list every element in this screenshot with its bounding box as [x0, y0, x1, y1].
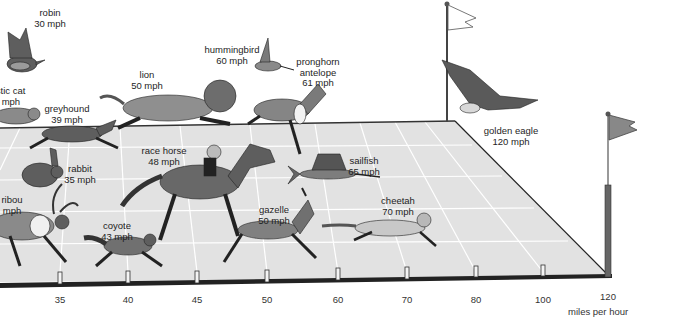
tick-120: 120: [600, 291, 616, 302]
tick-70: 70: [402, 294, 413, 305]
tick-100: 100: [535, 294, 551, 305]
animal-speed: 61 mph: [296, 78, 339, 89]
animal-speed: 60 mph: [205, 56, 260, 67]
animal-name: estic cat: [0, 86, 25, 97]
lion-illustration: [100, 80, 236, 128]
animal-name: golden eagle: [484, 126, 538, 137]
label-sailfish: sailfish 65 mph: [348, 156, 380, 177]
animal-speed: 48 mph: [142, 157, 187, 168]
animal-speed: 39 mph: [45, 115, 90, 126]
animal-name: ribou: [1, 195, 22, 206]
robin-illustration: [7, 28, 45, 72]
animal-name: sailfish: [348, 156, 380, 167]
animal-name: rabbit: [64, 164, 96, 175]
animal-speed: 65 mph: [348, 167, 380, 178]
label-caribou: ribou mph: [1, 195, 22, 216]
label-robin: robin 30 mph: [34, 8, 66, 29]
label-domestic-cat: estic cat ) mph: [0, 86, 25, 107]
animal-speed: 120 mph: [484, 137, 538, 148]
label-gazelle: gazelle 50 mph: [258, 205, 290, 226]
animal-speed: 30 mph: [34, 19, 66, 30]
animal-speed: 50 mph: [258, 216, 290, 227]
animal-speed: ) mph: [0, 97, 25, 108]
animal-name: coyote: [101, 221, 133, 232]
label-greyhound: greyhound 39 mph: [45, 104, 90, 125]
animal-name: hummingbird: [205, 45, 260, 56]
label-golden-eagle: golden eagle 120 mph: [484, 126, 538, 147]
tick-40: 40: [123, 294, 134, 305]
speed-illustration: robin 30 mph estic cat ) mph greyhound 3…: [0, 0, 675, 324]
tick-60: 60: [333, 294, 344, 305]
animal-name: lion: [131, 70, 163, 81]
animal-name: greyhound: [45, 104, 90, 115]
tick-35: 35: [55, 294, 66, 305]
animal-speed: 35 mph: [64, 175, 96, 186]
animal-name: robin: [34, 8, 66, 19]
animal-speed: 70 mph: [381, 207, 415, 218]
animal-name: race horse: [142, 146, 187, 157]
domestic-cat-illustration: [0, 108, 40, 124]
animal-speed: 43 mph: [101, 232, 133, 243]
hummingbird-illustration: [255, 38, 294, 71]
animal-name: pronghorn: [296, 57, 339, 68]
golden-eagle-illustration: [442, 60, 538, 113]
animal-speed: 50 mph: [131, 81, 163, 92]
animal-name: cheetah: [381, 196, 415, 207]
label-coyote: coyote 43 mph: [101, 221, 133, 242]
animal-name: gazelle: [258, 205, 290, 216]
label-race-horse: race horse 48 mph: [142, 146, 187, 167]
label-cheetah: cheetah 70 mph: [381, 196, 415, 217]
tick-80: 80: [471, 294, 482, 305]
label-lion: lion 50 mph: [131, 70, 163, 91]
label-hummingbird: hummingbird 60 mph: [205, 45, 260, 66]
race-field-graphic: [0, 0, 675, 324]
label-rabbit: rabbit 35 mph: [64, 164, 96, 185]
flag-pole-finish: [605, 112, 637, 278]
label-pronghorn-antelope: pronghorn antelope 61 mph: [296, 57, 339, 89]
axis-unit-label: miles per hour: [568, 306, 628, 317]
animal-speed: mph: [1, 206, 22, 217]
tick-45: 45: [192, 294, 203, 305]
tick-50: 50: [262, 294, 273, 305]
